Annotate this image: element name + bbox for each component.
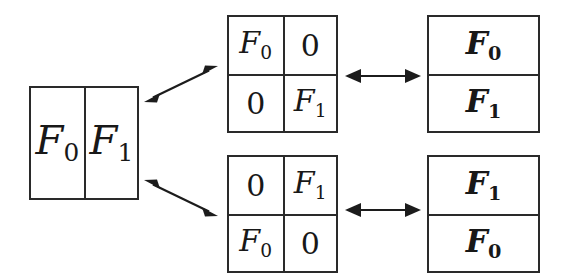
matrix-cell-r2c2: F1 [283, 74, 337, 131]
matrix-cell-r1c1: F0 [229, 17, 283, 74]
arrow-left-to-diagonal-matrix [142, 62, 220, 106]
symbol-zero: 0 [301, 31, 320, 61]
vector-cell-row1: F0 [429, 17, 538, 74]
matrix-cell-r1c2: F1 [283, 157, 337, 214]
diagonal-matrix: F0 0 0 F1 [227, 15, 338, 133]
symbol-f0-bold: F0 [466, 28, 502, 63]
vector-cell-row2: F0 [429, 214, 538, 271]
symbol-f1-bold: F1 [466, 168, 502, 203]
symbol-f1: F1 [90, 120, 134, 166]
arrow-head-end [202, 208, 218, 217]
symbol-zero: 0 [246, 89, 265, 119]
symbol-f0: F0 [239, 226, 272, 260]
arrow-left-to-antidiagonal-matrix [142, 176, 220, 220]
arrow-head-start [144, 180, 160, 189]
matrix-cell-r2c1: F0 [229, 214, 283, 271]
arrow-head-left [345, 203, 361, 217]
symbol-zero: 0 [246, 171, 265, 201]
symbol-f1: F1 [294, 86, 327, 120]
arrow-head-end [202, 66, 218, 75]
matrix-cell-r1c1: 0 [229, 157, 283, 214]
column-vector-f0-f1: F0 F1 [427, 15, 540, 133]
symbol-f0: F0 [239, 28, 272, 62]
vector-cell-row1: F1 [429, 157, 538, 214]
symbol-f1: F1 [294, 168, 327, 202]
arrow-head-left [345, 69, 361, 83]
arrow-diagonal-matrix-to-vector [344, 62, 422, 90]
arrow-head-right [405, 69, 421, 83]
symbol-f0-bold: F0 [466, 226, 502, 261]
arrow-head-right [405, 203, 421, 217]
symbol-f0: F0 [36, 120, 80, 166]
matrix-cell-r1c2: 0 [283, 17, 337, 74]
matrix-cell-r2c1: 0 [229, 74, 283, 131]
column-vector-f1-f0: F1 F0 [427, 155, 540, 273]
symbol-f1-bold: F1 [466, 86, 502, 121]
direct-sum-box: F0 F1 [29, 86, 139, 200]
figure-canvas: F0 F1 F0 0 0 F1 0 F1 F0 0 [0, 0, 566, 279]
cell-f0: F0 [31, 88, 84, 198]
cell-f1: F1 [84, 88, 137, 198]
matrix-cell-r2c2: 0 [283, 214, 337, 271]
arrow-head-start [144, 94, 160, 103]
arrow-antidiagonal-matrix-to-vector [344, 196, 422, 224]
symbol-zero: 0 [301, 229, 320, 259]
antidiagonal-matrix: 0 F1 F0 0 [227, 155, 338, 273]
vector-cell-row2: F1 [429, 74, 538, 131]
